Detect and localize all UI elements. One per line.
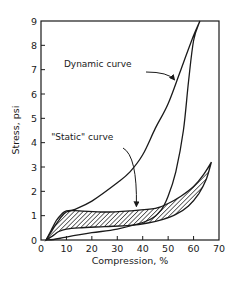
stress-compression-chart: 0123456789 010203040506070 Dynamic curve…	[0, 0, 235, 281]
y-tick-label: 7	[31, 64, 37, 75]
x-tick-label: 10	[60, 243, 72, 254]
y-tick-label: 5	[31, 113, 37, 124]
x-tick-label: 0	[38, 243, 44, 254]
annotations: Dynamic curve "Static" curve	[51, 59, 174, 206]
y-tick-label: 4	[31, 137, 37, 148]
y-tick-label: 9	[31, 16, 37, 27]
y-tick-label: 1	[31, 210, 37, 221]
x-tick-label: 50	[162, 243, 174, 254]
x-axis-label: Compression, %	[92, 255, 169, 266]
static-curve-label: "Static" curve	[51, 132, 114, 142]
dynamic-curve-label: Dynamic curve	[64, 59, 132, 69]
y-tick-label: 3	[31, 162, 37, 173]
y-axis-ticks: 0123456789	[31, 16, 45, 246]
y-tick-label: 8	[31, 40, 37, 51]
y-tick-label: 6	[31, 89, 37, 100]
dynamic-curve-arrow	[146, 72, 175, 80]
x-tick-label: 20	[86, 243, 98, 254]
x-tick-label: 30	[111, 243, 123, 254]
x-tick-label: 60	[188, 243, 200, 254]
y-axis-label: Stress, psi	[10, 106, 21, 155]
x-tick-label: 40	[137, 243, 149, 254]
x-axis-ticks: 010203040506070	[38, 236, 225, 254]
y-tick-label: 2	[31, 186, 37, 197]
y-tick-label: 0	[31, 235, 37, 246]
series-layer	[46, 21, 211, 240]
x-tick-label: 70	[213, 243, 225, 254]
